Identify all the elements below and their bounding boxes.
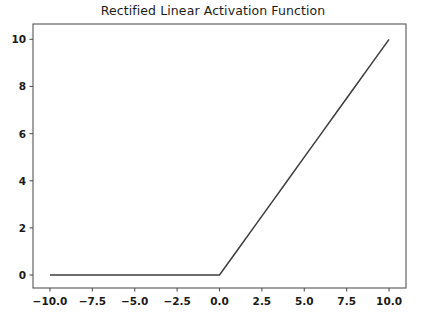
- figure-canvas: Rectified Linear Activation Function −10…: [0, 0, 426, 321]
- y-tick-label: 2: [0, 222, 26, 234]
- y-tick-label: 8: [0, 80, 26, 92]
- axes-background: [33, 24, 406, 288]
- y-tick-label: 6: [0, 128, 26, 140]
- y-tick-label: 4: [0, 175, 26, 187]
- x-tick-label: −10.0: [33, 295, 68, 307]
- x-tick-label: 7.5: [337, 295, 356, 307]
- x-tick-label: 5.0: [295, 295, 314, 307]
- x-tick-label: −5.0: [121, 295, 148, 307]
- y-tick-label: 10: [0, 33, 26, 45]
- y-tick-label: 0: [0, 269, 26, 281]
- x-tick-label: 0.0: [210, 295, 229, 307]
- plot-area: [0, 0, 426, 321]
- x-tick-label: 2.5: [253, 295, 272, 307]
- x-tick-label: −2.5: [163, 295, 190, 307]
- x-tick-label: 10.0: [376, 295, 402, 307]
- x-tick-label: −7.5: [79, 295, 106, 307]
